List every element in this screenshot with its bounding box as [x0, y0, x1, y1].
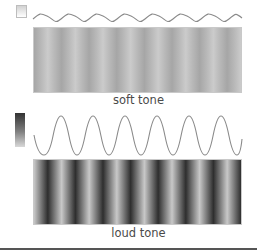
- soft-tone-intensity-swatch: [16, 5, 27, 18]
- loud-tone-intensity-swatch: [15, 113, 25, 147]
- loud-tone-waveform: [33, 115, 242, 157]
- loud-tone-pressure-stripes: [33, 159, 242, 225]
- soft-tone-label: soft tone: [10, 93, 257, 107]
- soft-tone-pressure-stripes: [33, 27, 242, 93]
- loud-tone-label: loud tone: [10, 226, 257, 240]
- soft-tone-waveform: [33, 12, 242, 26]
